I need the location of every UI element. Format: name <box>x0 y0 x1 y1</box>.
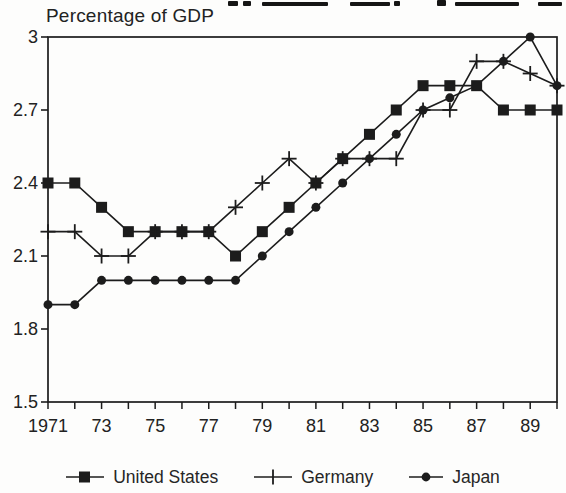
x-tick-label: 83 <box>359 416 379 436</box>
marker-circle <box>499 57 508 66</box>
marker-circle <box>338 179 347 188</box>
marker-circle <box>311 203 320 212</box>
x-tick-label: 81 <box>306 416 326 436</box>
marker-circle <box>231 276 240 285</box>
marker-circle <box>526 33 535 42</box>
x-tick-label: 85 <box>413 416 433 436</box>
legend-item-united-states: United States <box>66 467 218 488</box>
x-tick-label: 89 <box>520 416 540 436</box>
marker-square <box>444 80 455 91</box>
marker-square <box>418 80 429 91</box>
x-tick-label: 73 <box>92 416 112 436</box>
marker-circle <box>419 106 428 115</box>
y-tick-label: 1.5 <box>13 392 38 412</box>
square-marker-icon <box>66 470 104 484</box>
marker-square <box>391 105 402 116</box>
marker-square <box>43 178 54 189</box>
x-tick-label: 87 <box>467 416 487 436</box>
marker-circle <box>177 276 186 285</box>
marker-circle <box>392 130 401 139</box>
x-tick-label: 77 <box>199 416 219 436</box>
marker-circle <box>445 93 454 102</box>
legend-label-japan: Japan <box>452 467 500 488</box>
marker-circle <box>472 81 481 90</box>
circle-marker-icon <box>409 471 443 483</box>
marker-square <box>498 105 509 116</box>
y-tick-label: 3 <box>28 27 38 47</box>
marker-square <box>284 202 295 213</box>
y-tick-label: 2.7 <box>13 100 38 120</box>
legend-item-germany: Germany <box>254 467 373 488</box>
scanned-chart-page: Percentage of GDP 1.51.82.12.42.73197173… <box>0 0 566 493</box>
marker-square <box>525 105 536 116</box>
x-tick-label: 75 <box>145 416 165 436</box>
marker-circle <box>70 300 79 309</box>
legend-label-germany: Germany <box>301 467 373 488</box>
marker-square <box>96 202 107 213</box>
marker-circle <box>151 276 160 285</box>
marker-circle <box>97 276 106 285</box>
y-tick-label: 2.4 <box>13 173 38 193</box>
x-tick-label: 79 <box>252 416 272 436</box>
marker-square <box>257 226 268 237</box>
marker-square <box>123 226 134 237</box>
marker-square <box>552 105 563 116</box>
marker-circle <box>258 252 267 261</box>
y-tick-label: 2.1 <box>13 246 38 266</box>
marker-circle <box>204 276 213 285</box>
legend: United States Germany Japan <box>0 462 566 492</box>
marker-square <box>230 251 241 262</box>
marker-circle <box>365 154 374 163</box>
x-tick-label: 1971 <box>28 416 68 436</box>
y-tick-label: 1.8 <box>13 319 38 339</box>
marker-circle <box>44 300 53 309</box>
plus-marker-icon <box>254 469 292 485</box>
marker-circle <box>553 81 562 90</box>
marker-square <box>364 129 375 140</box>
marker-square <box>69 178 80 189</box>
marker-circle <box>285 227 294 236</box>
legend-label-united-states: United States <box>113 467 218 488</box>
marker-circle <box>124 276 133 285</box>
chart-plot-area: 1.51.82.12.42.731971737577798183858789 <box>0 0 566 450</box>
legend-item-japan: Japan <box>409 467 500 488</box>
